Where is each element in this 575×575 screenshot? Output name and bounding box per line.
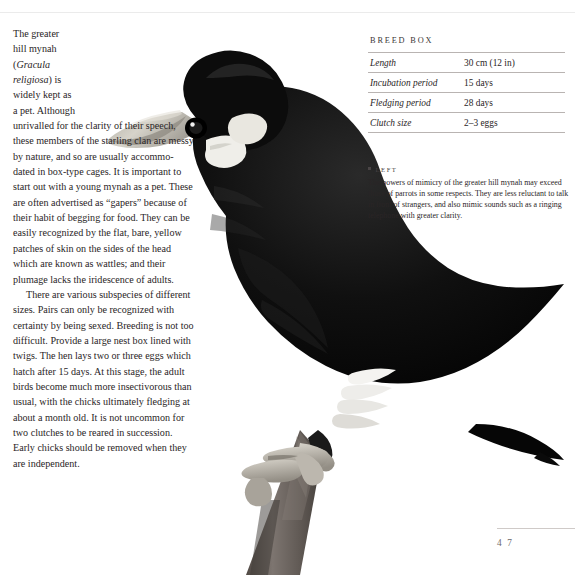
- breed-box-label-incubation-period: Incubation period: [368, 72, 462, 92]
- caption-heading: LEFT: [376, 166, 398, 173]
- breed-box-value-clutch-size: 2–3 eggs: [462, 112, 565, 132]
- breed-box-value-fledging-period: 28 days: [462, 92, 565, 112]
- bird-tail: [468, 424, 564, 466]
- breed-box-value-incubation-period: 15 days: [462, 72, 565, 92]
- bullet-square-icon: [368, 167, 371, 170]
- article-body: The greater hill mynah (Gracula religios…: [13, 26, 195, 471]
- breed-box-value-length: 30 cm (12 in): [462, 53, 565, 73]
- breed-box-label-length: Length: [368, 53, 462, 73]
- breed-box-label-fledging-period: Fledging period: [368, 92, 462, 112]
- breed-box: BREED BOX Length 30 cm (12 in) Incubatio…: [368, 36, 565, 133]
- table-row: Length 30 cm (12 in): [368, 53, 565, 73]
- breed-box-title: BREED BOX: [370, 36, 565, 45]
- paragraph-2: There are various subspecies of differen…: [13, 287, 195, 471]
- breed-box-label-clutch-size: Clutch size: [368, 112, 462, 132]
- book-page: The greater hill mynah (Gracula religios…: [0, 0, 575, 575]
- folio-rule: [497, 528, 575, 529]
- caption-body: The powers of mimicry of the greater hil…: [368, 177, 571, 221]
- paragraph-1: The greater hill mynah (Gracula religios…: [13, 26, 195, 287]
- table-row: Clutch size 2–3 eggs: [368, 112, 565, 132]
- breed-box-table: Length 30 cm (12 in) Incubation period 1…: [368, 52, 565, 133]
- species-binomial: Gracula religiosa: [13, 59, 50, 85]
- photo-caption: LEFT The powers of mimicry of the greate…: [368, 166, 571, 221]
- table-row: Incubation period 15 days: [368, 72, 565, 92]
- table-row: Fledging period 28 days: [368, 92, 565, 112]
- caption-heading-row: LEFT: [368, 166, 571, 173]
- page-number: 4 7: [497, 538, 513, 548]
